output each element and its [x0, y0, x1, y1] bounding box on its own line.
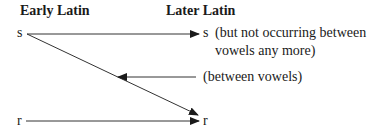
- arrow-s-to-r: [27, 34, 198, 115]
- diagram-arrows: [0, 0, 390, 134]
